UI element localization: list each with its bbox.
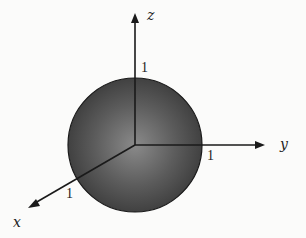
y-axis-label: y bbox=[279, 136, 289, 152]
unit-sphere-diagram: z y x 1 1 1 bbox=[0, 0, 306, 238]
z-axis-arrow-icon bbox=[131, 13, 139, 23]
y-tick-label: 1 bbox=[207, 148, 214, 163]
z-tick-label: 1 bbox=[141, 60, 148, 75]
z-axis-label: z bbox=[146, 7, 155, 23]
y-axis-arrow-icon bbox=[255, 141, 265, 149]
x-tick-label: 1 bbox=[66, 186, 73, 201]
x-axis-label: x bbox=[13, 214, 21, 230]
